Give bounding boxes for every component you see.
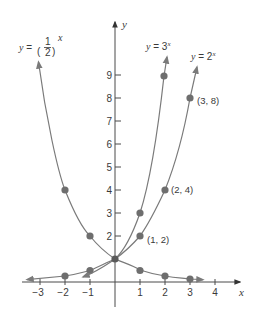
x-tick-label: −1	[82, 287, 94, 298]
svg-text:1: 1	[45, 36, 51, 47]
x-tick-label: 3	[187, 287, 193, 298]
x-tick-label: 4	[212, 287, 218, 298]
y-tick-label: 8	[106, 93, 112, 104]
x-tick-label: −3	[32, 287, 44, 298]
svg-text:y = 3x: y = 3x	[145, 40, 171, 52]
y-tick-label: 5	[106, 162, 112, 173]
label-two-pow-x: y = 2x	[190, 50, 216, 62]
x-tick-label: 2	[162, 287, 168, 298]
curve-half-pow-x	[39, 62, 204, 283]
label-half-pow-x: y = ( 1 2 ) x	[18, 32, 63, 58]
svg-text:y =: y =	[18, 42, 32, 53]
point-label-2-4: (2, 4)	[171, 184, 193, 195]
y-tick-label: 2	[106, 231, 112, 242]
point-label-3-8: (3, 8)	[197, 95, 219, 106]
y-tick-label: 4	[106, 185, 112, 196]
svg-text:2: 2	[45, 47, 51, 58]
point-label-1-2: (1, 2)	[147, 234, 169, 245]
svg-text:(: (	[37, 46, 41, 57]
y-tick-label: 3	[106, 208, 112, 219]
svg-text:y = 2x: y = 2x	[190, 50, 216, 62]
x-tick-label: 1	[137, 287, 143, 298]
label-three-pow-x: y = 3x	[145, 40, 171, 52]
y-tick-label: 6	[106, 139, 112, 150]
x-tick-label: −2	[57, 287, 69, 298]
svg-text:x: x	[57, 32, 63, 43]
y-tick-label: 7	[106, 116, 112, 127]
svg-text:): )	[52, 46, 55, 57]
exponential-functions-chart: x y −3 −2 −1 1 2 3 4 2 3 4 5 6 7 8 9	[0, 0, 259, 318]
x-axis-label: x	[238, 286, 244, 298]
y-axis-label: y	[121, 18, 127, 30]
y-ticks: 2 3 4 5 6 7 8 9	[106, 70, 121, 242]
y-tick-label: 9	[106, 70, 112, 81]
curve-two-pow-x	[27, 67, 197, 280]
